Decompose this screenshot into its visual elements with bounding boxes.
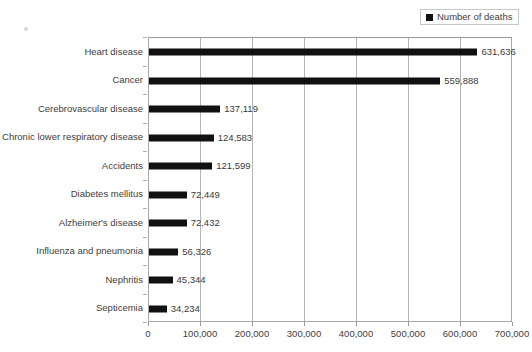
y-axis-label-9: Nephritis [106, 265, 144, 294]
x-axis-tick [200, 322, 201, 326]
y-axis-tick [143, 94, 147, 95]
bar-value-label: 72,449 [187, 190, 220, 200]
chart-plot-area: 631,636559,888137,119124,583121,59972,44… [148, 37, 512, 322]
x-axis-tick [512, 322, 513, 326]
chart-bar-row: 121,599 [149, 152, 511, 181]
bar-8 [149, 248, 178, 255]
y-axis-tick [143, 208, 147, 209]
y-axis-category-labels: Heart diseaseCancerCerebrovascular disea… [0, 37, 143, 322]
bar-value-label: 45,344 [173, 276, 206, 286]
x-axis-tick-label: 700,000 [495, 329, 529, 339]
bar-2 [149, 77, 440, 84]
y-axis-tick [143, 151, 147, 152]
bar-9 [149, 277, 173, 284]
chart-bar-row: 45,344 [149, 266, 511, 295]
bar-value-label: 559,888 [440, 76, 478, 86]
x-axis-tick [148, 322, 149, 326]
y-axis-tick [143, 123, 147, 124]
x-axis-tick-label: 200,000 [235, 329, 269, 339]
x-axis-tick-label: 0 [145, 329, 150, 339]
chart-bar-row: 56,326 [149, 238, 511, 267]
bar-7 [149, 220, 187, 227]
y-axis-label-4: Chronic lower respiratory disease [2, 123, 143, 152]
bar-value-label: 137,119 [220, 105, 258, 115]
chart-bar-row: 631,636 [149, 38, 511, 67]
legend-label: Number of deaths [437, 12, 513, 22]
x-axis-tick [356, 322, 357, 326]
chart-bar-row: 34,234 [149, 295, 511, 324]
y-axis-tick [143, 265, 147, 266]
legend-swatch-icon [426, 14, 433, 21]
x-axis-tick-label: 500,000 [391, 329, 425, 339]
chart-legend: Number of deaths [420, 9, 519, 25]
x-axis-tick-label: 300,000 [287, 329, 321, 339]
y-axis-tick [143, 237, 147, 238]
bar-value-label: 72,432 [187, 219, 220, 229]
y-axis-label-1: Heart disease [84, 37, 143, 66]
y-axis-tick [143, 322, 147, 323]
bar-6 [149, 191, 187, 198]
x-axis-tick [408, 322, 409, 326]
chart-bar-row: 124,583 [149, 124, 511, 153]
bar-1 [149, 49, 477, 56]
y-axis-tick [143, 66, 147, 67]
bar-value-label: 631,636 [477, 48, 515, 58]
x-axis-tick [304, 322, 305, 326]
y-axis-tick [143, 180, 147, 181]
chart-bar-row: 559,888 [149, 67, 511, 96]
bar-value-label: 34,234 [167, 304, 200, 314]
bar-value-label: 56,326 [178, 247, 211, 257]
page-speck-artifact [24, 27, 28, 31]
chart-bar-row: 72,449 [149, 181, 511, 210]
chart-bar-row: 137,119 [149, 95, 511, 124]
y-axis-label-6: Diabetes mellitus [71, 180, 143, 209]
x-axis-tick [252, 322, 253, 326]
x-axis-tick-label: 600,000 [443, 329, 477, 339]
y-axis-label-3: Cerebrovascular disease [38, 94, 143, 123]
y-axis-label-7: Alzheimer's disease [59, 208, 143, 237]
bar-5 [149, 163, 212, 170]
y-axis-label-10: Septicemia [96, 294, 143, 323]
y-axis-tick [143, 294, 147, 295]
bar-4 [149, 134, 214, 141]
bar-value-label: 124,583 [214, 133, 252, 143]
y-axis-label-5: Accidents [102, 151, 143, 180]
bar-10 [149, 305, 167, 312]
bar-value-label: 121,599 [212, 162, 250, 172]
x-axis-tick-label: 400,000 [339, 329, 373, 339]
bar-3 [149, 106, 220, 113]
y-axis-label-2: Cancer [112, 66, 143, 95]
y-axis-tick [143, 37, 147, 38]
y-axis-label-8: Influenza and pneumonia [36, 237, 143, 266]
x-axis-tick-label: 100,000 [183, 329, 217, 339]
x-axis-tick [460, 322, 461, 326]
chart-bar-row: 72,432 [149, 209, 511, 238]
